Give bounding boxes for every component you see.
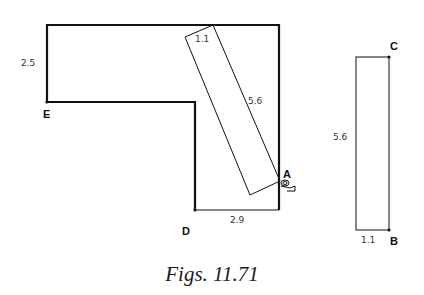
- point-b-label: B: [390, 235, 398, 247]
- upright-rectangle: [356, 57, 389, 230]
- upright-short-side-label: 1.1: [361, 235, 375, 245]
- figure-canvas: 2.5 E D 2.9 1.1 5.6 A C B 5.6 1.1: [0, 0, 424, 295]
- point-d-label: D: [182, 225, 190, 237]
- figure-caption: Figs. 11.71: [0, 262, 424, 287]
- l-shape-outline: [47, 25, 279, 210]
- pivot-point-a-label: A: [283, 168, 291, 180]
- tilted-short-side-label: 1.1: [195, 34, 209, 44]
- point-e-dot: [45, 100, 48, 103]
- l-shape-width-label: 2.9: [230, 215, 245, 225]
- point-c-dot: [387, 55, 390, 58]
- upright-long-side-label: 5.6: [333, 132, 348, 142]
- point-e-label: E: [43, 108, 50, 120]
- l-shape-height-label: 2.5: [21, 58, 35, 68]
- tilted-rectangle: [185, 25, 280, 195]
- point-d-dot: [193, 208, 196, 211]
- tilted-long-side-label: 5.6: [248, 96, 263, 106]
- point-b-dot: [387, 228, 390, 231]
- point-c-label: C: [390, 40, 398, 52]
- pivot-hand-icon: [281, 180, 295, 191]
